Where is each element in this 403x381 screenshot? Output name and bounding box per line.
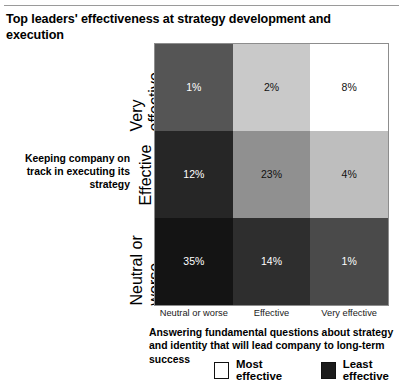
heatmap-cell: 8% [310, 44, 388, 131]
heatmap-cell-value: 23% [261, 169, 282, 180]
y-axis-title: Keeping company on track in executing it… [12, 152, 130, 192]
heatmap-cell: 1% [155, 44, 233, 131]
heatmap-cell: 1% [310, 218, 388, 305]
heatmap-cell-value: 1% [186, 82, 201, 93]
header-divider [4, 5, 399, 6]
x-axis-tick-neutral-or-worse: Neutral or worse [155, 308, 233, 318]
y-axis-tick-very-effective: Very effective [137, 44, 155, 131]
legend-label-least-effective: Least effective [343, 358, 403, 381]
heatmap-cell-value: 12% [183, 169, 204, 180]
heatmap-cell: 12% [155, 131, 233, 218]
heatmap-cell: 4% [310, 131, 388, 218]
heatmap-cell: 35% [155, 218, 233, 305]
legend-swatch-most-effective [214, 362, 229, 379]
x-axis-tick-labels: Neutral or worse Effective Very effectiv… [155, 308, 388, 318]
heatmap-cell-value: 1% [342, 256, 357, 267]
heatmap-grid: 1% 2% 8% 12% 23% 4% 35% 14% 1% [155, 44, 388, 305]
heatmap-cell-value: 2% [264, 82, 279, 93]
legend-item-most-effective: Most effective [214, 358, 294, 381]
legend-label-most-effective: Most effective [236, 358, 294, 381]
heatmap-cell-value: 35% [183, 256, 204, 267]
x-axis-tick-effective: Effective [233, 308, 311, 318]
heatmap-cell-value: 14% [261, 256, 282, 267]
y-axis-tick-labels: Very effective Effective Neutral or wors… [136, 44, 154, 305]
heatmap-cell: 2% [233, 44, 311, 131]
y-axis-tick-neutral-or-worse: Neutral or worse [137, 218, 155, 305]
y-axis-tick-effective: Effective [137, 131, 155, 218]
heatmap-cell: 23% [233, 131, 311, 218]
heatmap-cell-value: 8% [342, 82, 357, 93]
heatmap-cell-value: 4% [342, 169, 357, 180]
legend-swatch-least-effective [321, 362, 336, 379]
heatmap-cell: 14% [233, 218, 311, 305]
legend: Most effective Least effective [214, 358, 403, 381]
x-axis-tick-very-effective: Very effective [310, 308, 388, 318]
page-title: Top leaders' effectiveness at strategy d… [6, 11, 378, 43]
legend-item-least-effective: Least effective [321, 358, 403, 381]
